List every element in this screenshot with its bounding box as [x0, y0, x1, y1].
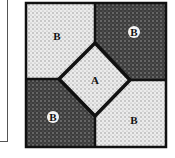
label-b-bottom-left: B [49, 111, 57, 123]
label-b-top-left: B [53, 30, 61, 42]
label-a-center: A [91, 74, 99, 86]
label-b-bottom-right: B [130, 114, 138, 126]
quilt-block-diagram: A B B B B [0, 0, 175, 158]
label-b-top-right: B [130, 26, 138, 38]
